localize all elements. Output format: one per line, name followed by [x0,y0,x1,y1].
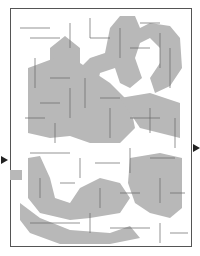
shaded-regions [10,16,182,244]
entrance-arrow-icon [1,156,8,164]
maze-grid [10,8,192,247]
exit-arrow-icon [193,144,200,152]
